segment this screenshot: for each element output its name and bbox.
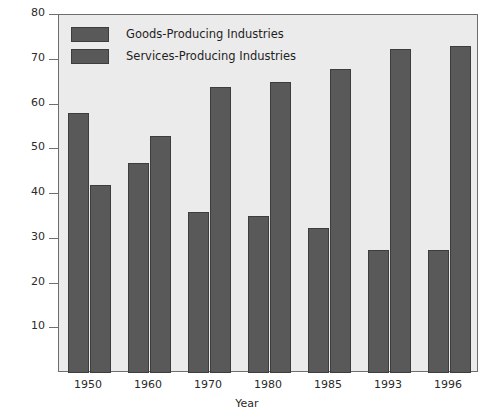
y-tick-label: 30 <box>31 230 45 243</box>
bar <box>390 49 411 373</box>
y-tick-mark <box>49 283 58 284</box>
bar <box>308 228 329 373</box>
bar <box>330 69 351 373</box>
y-tick: 10 <box>0 327 58 328</box>
legend-item-goods: Goods-Producing Industries <box>71 24 296 44</box>
y-tick-mark <box>49 327 58 328</box>
y-tick-label: 40 <box>31 185 45 198</box>
y-tick-label: 80 <box>31 6 45 19</box>
x-tick-label: 1996 <box>418 378 478 391</box>
y-tick: 30 <box>0 238 58 239</box>
bar <box>210 87 231 373</box>
legend-label-goods: Goods-Producing Industries <box>126 27 284 41</box>
y-tick-label: 70 <box>31 51 45 64</box>
legend-swatch-goods-icon <box>71 27 109 42</box>
bar <box>248 216 269 373</box>
bar <box>450 46 471 373</box>
y-tick-mark <box>49 104 58 105</box>
y-tick-mark <box>49 193 58 194</box>
bar <box>368 250 389 373</box>
y-tick-mark <box>49 148 58 149</box>
x-tick-label: 1980 <box>238 378 298 391</box>
legend-item-services: Services-Producing Industries <box>71 46 296 66</box>
y-tick-label: 20 <box>31 275 45 288</box>
y-tick: 70 <box>0 59 58 60</box>
x-tick-label: 1950 <box>58 378 118 391</box>
bar <box>128 163 149 373</box>
x-axis-label: Year <box>0 397 494 410</box>
bar <box>270 82 291 373</box>
y-tick-label: 60 <box>31 96 45 109</box>
y-tick: 80 <box>0 14 58 15</box>
y-tick-label: 10 <box>31 319 45 332</box>
x-tick-label: 1985 <box>298 378 358 391</box>
y-tick: 40 <box>0 193 58 194</box>
y-tick-label: 50 <box>31 140 45 153</box>
legend-label-services: Services-Producing Industries <box>126 49 296 63</box>
bar-chart: Percent 1020304050607080 Goods-Producing… <box>0 0 494 417</box>
y-tick-mark <box>49 14 58 15</box>
legend: Goods-Producing Industries Services-Prod… <box>71 24 296 68</box>
y-tick: 50 <box>0 148 58 149</box>
y-tick: 60 <box>0 104 58 105</box>
bar <box>150 136 171 373</box>
y-tick: 20 <box>0 283 58 284</box>
y-tick-mark <box>49 238 58 239</box>
legend-swatch-services-icon <box>71 49 109 64</box>
x-tick-label: 1960 <box>118 378 178 391</box>
bar <box>68 113 89 373</box>
y-tick-mark <box>49 59 58 60</box>
bar <box>90 185 111 373</box>
bar <box>188 212 209 373</box>
x-tick-label: 1993 <box>358 378 418 391</box>
x-tick-label: 1970 <box>178 378 238 391</box>
bar <box>428 250 449 373</box>
